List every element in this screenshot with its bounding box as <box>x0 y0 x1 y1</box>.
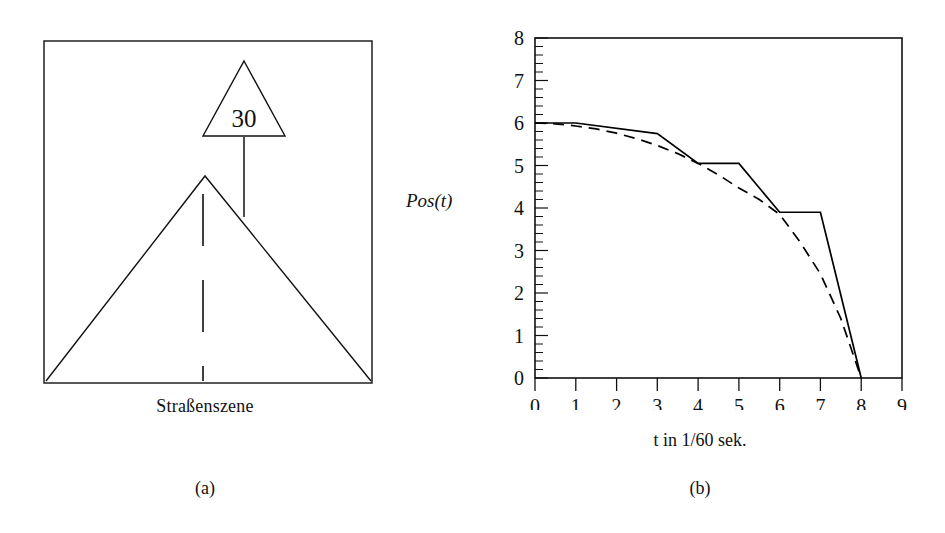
scene-frame-box <box>44 41 372 383</box>
caption-a: (a) <box>0 478 410 499</box>
y-axis-label: Pos(t) <box>406 190 452 212</box>
speed-limit-value: 30 <box>232 105 257 132</box>
road-outline <box>46 176 371 381</box>
y-tick-label: 2 <box>514 282 524 304</box>
x-tick-label: 1 <box>571 395 581 410</box>
y-axis-tick-labels: 0 1 2 3 4 5 6 7 8 <box>514 27 524 389</box>
chart-series-solid <box>535 123 861 378</box>
x-tick-label: 3 <box>652 395 662 410</box>
caption-b: (b) <box>500 478 900 499</box>
x-tick-label: 5 <box>734 395 744 410</box>
x-tick-label: 4 <box>693 395 703 410</box>
y-tick-label: 5 <box>514 155 524 177</box>
y-tick-label: 1 <box>514 325 524 347</box>
street-scene-diagram: 30 <box>30 28 390 396</box>
panel-b-position-plot: Pos(t) <box>400 0 945 533</box>
x-axis-ticks <box>535 378 902 391</box>
chart-series-dashed <box>535 123 861 378</box>
y-axis-ticks <box>535 38 548 378</box>
chart-frame <box>535 38 902 378</box>
x-axis-tick-labels: 0 1 2 3 4 5 6 7 8 9 <box>530 395 907 410</box>
chart-series-layer <box>535 123 861 378</box>
x-tick-label: 0 <box>530 395 540 410</box>
y-tick-label: 4 <box>514 197 524 219</box>
y-tick-label: 3 <box>514 240 524 262</box>
y-tick-label: 8 <box>514 27 524 49</box>
x-axis-label: t in 1/60 sek. <box>500 430 900 451</box>
figure-page: 30 Straßenszene (a) Pos(t) <box>0 0 945 533</box>
x-tick-label: 2 <box>612 395 622 410</box>
y-tick-label: 7 <box>514 70 524 92</box>
x-tick-label: 6 <box>775 395 785 410</box>
y-tick-label: 6 <box>514 112 524 134</box>
x-tick-label: 8 <box>856 395 866 410</box>
position-time-chart: 0 1 2 3 4 5 6 7 8 0 1 2 3 4 5 6 7 8 <box>480 10 940 410</box>
y-tick-label: 0 <box>514 367 524 389</box>
scene-label: Straßenszene <box>0 396 410 417</box>
x-tick-label: 9 <box>897 395 907 410</box>
x-tick-label: 7 <box>815 395 825 410</box>
